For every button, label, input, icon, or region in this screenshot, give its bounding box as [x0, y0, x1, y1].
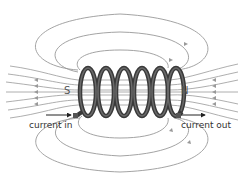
north-pole-label: N — [181, 86, 188, 96]
current-in-label: current in — [29, 121, 73, 130]
south-pole-label: S — [64, 86, 70, 96]
solenoid-field-diagram — [0, 0, 241, 176]
current-out-label: current out — [181, 121, 231, 130]
inner-field-lines — [6, 64, 238, 120]
solenoid-coil — [73, 68, 184, 118]
